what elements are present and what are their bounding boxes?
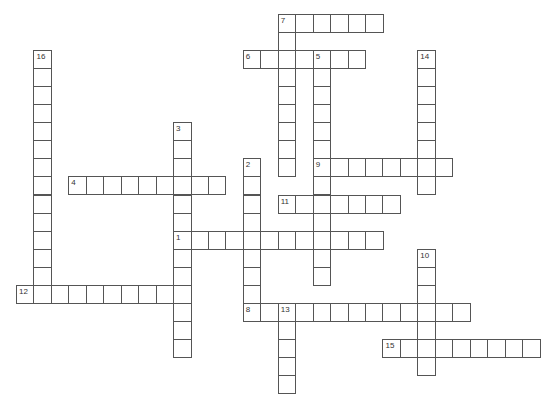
crossword-cell[interactable] <box>400 158 419 177</box>
crossword-cell[interactable] <box>417 321 436 340</box>
crossword-cell[interactable] <box>382 303 401 322</box>
crossword-cell[interactable] <box>173 339 192 358</box>
crossword-cell[interactable] <box>103 285 122 304</box>
crossword-cell[interactable] <box>330 158 349 177</box>
crossword-cell[interactable] <box>505 339 524 358</box>
crossword-cell[interactable] <box>278 339 297 358</box>
crossword-cell[interactable] <box>33 195 52 214</box>
crossword-cell[interactable] <box>417 104 436 123</box>
crossword-cell[interactable] <box>382 195 401 214</box>
crossword-cell[interactable]: 4 <box>68 176 87 195</box>
crossword-cell[interactable]: 5 <box>313 50 332 69</box>
crossword-cell[interactable] <box>278 104 297 123</box>
crossword-cell[interactable] <box>138 285 157 304</box>
crossword-cell[interactable] <box>173 213 192 232</box>
crossword-cell[interactable]: 3 <box>173 122 192 141</box>
crossword-cell[interactable] <box>156 285 175 304</box>
crossword-cell[interactable] <box>173 267 192 286</box>
crossword-cell[interactable] <box>278 32 297 51</box>
crossword-cell[interactable] <box>33 231 52 250</box>
crossword-cell[interactable] <box>330 50 349 69</box>
crossword-cell[interactable] <box>191 176 210 195</box>
crossword-cell[interactable] <box>243 213 262 232</box>
crossword-cell[interactable] <box>382 158 401 177</box>
crossword-cell[interactable] <box>243 231 262 250</box>
crossword-cell[interactable] <box>435 303 454 322</box>
crossword-cell[interactable] <box>173 158 192 177</box>
crossword-cell[interactable] <box>313 249 332 268</box>
crossword-cell[interactable]: 13 <box>278 303 297 322</box>
crossword-cell[interactable] <box>33 285 52 304</box>
crossword-cell[interactable] <box>173 249 192 268</box>
crossword-cell[interactable] <box>278 231 297 250</box>
crossword-cell[interactable] <box>278 321 297 340</box>
crossword-cell[interactable] <box>295 14 314 33</box>
crossword-cell[interactable] <box>33 267 52 286</box>
crossword-cell[interactable] <box>313 140 332 159</box>
crossword-cell[interactable]: 7 <box>278 14 297 33</box>
crossword-cell[interactable] <box>487 339 506 358</box>
crossword-cell[interactable] <box>470 339 489 358</box>
crossword-cell[interactable]: 6 <box>243 50 262 69</box>
crossword-cell[interactable]: 16 <box>33 50 52 69</box>
crossword-cell[interactable] <box>156 176 175 195</box>
crossword-cell[interactable] <box>330 195 349 214</box>
crossword-cell[interactable] <box>313 195 332 214</box>
crossword-cell[interactable] <box>173 303 192 322</box>
crossword-cell[interactable] <box>278 68 297 87</box>
crossword-cell[interactable] <box>260 50 279 69</box>
crossword-cell[interactable] <box>330 303 349 322</box>
crossword-cell[interactable] <box>435 158 454 177</box>
crossword-cell[interactable]: 12 <box>16 285 35 304</box>
crossword-cell[interactable] <box>313 86 332 105</box>
crossword-cell[interactable]: 15 <box>382 339 401 358</box>
crossword-cell[interactable] <box>365 231 384 250</box>
crossword-cell[interactable] <box>348 231 367 250</box>
crossword-cell[interactable] <box>313 14 332 33</box>
crossword-cell[interactable] <box>278 375 297 394</box>
crossword-cell[interactable] <box>417 86 436 105</box>
crossword-cell[interactable] <box>208 231 227 250</box>
crossword-cell[interactable] <box>278 140 297 159</box>
crossword-cell[interactable] <box>173 140 192 159</box>
crossword-cell[interactable] <box>365 158 384 177</box>
crossword-cell[interactable] <box>33 122 52 141</box>
crossword-cell[interactable] <box>313 303 332 322</box>
crossword-cell[interactable] <box>260 303 279 322</box>
crossword-cell[interactable]: 8 <box>243 303 262 322</box>
crossword-cell[interactable] <box>243 176 262 195</box>
crossword-cell[interactable] <box>348 303 367 322</box>
crossword-cell[interactable] <box>313 213 332 232</box>
crossword-cell[interactable] <box>191 231 210 250</box>
crossword-cell[interactable] <box>417 140 436 159</box>
crossword-cell[interactable] <box>243 249 262 268</box>
crossword-cell[interactable] <box>121 285 140 304</box>
crossword-cell[interactable] <box>138 176 157 195</box>
crossword-cell[interactable] <box>313 176 332 195</box>
crossword-cell[interactable] <box>452 339 471 358</box>
crossword-cell[interactable] <box>260 231 279 250</box>
crossword-cell[interactable] <box>330 14 349 33</box>
crossword-cell[interactable] <box>173 321 192 340</box>
crossword-cell[interactable] <box>365 195 384 214</box>
crossword-cell[interactable] <box>348 14 367 33</box>
crossword-cell[interactable] <box>348 195 367 214</box>
crossword-cell[interactable] <box>208 176 227 195</box>
crossword-cell[interactable] <box>103 176 122 195</box>
crossword-cell[interactable] <box>121 176 140 195</box>
crossword-cell[interactable] <box>313 122 332 141</box>
crossword-cell[interactable] <box>173 285 192 304</box>
crossword-cell[interactable] <box>400 339 419 358</box>
crossword-cell[interactable] <box>68 285 87 304</box>
crossword-cell[interactable] <box>33 68 52 87</box>
crossword-cell[interactable] <box>33 213 52 232</box>
crossword-cell[interactable] <box>278 122 297 141</box>
crossword-cell[interactable] <box>278 357 297 376</box>
crossword-cell[interactable]: 14 <box>417 50 436 69</box>
crossword-cell[interactable] <box>435 339 454 358</box>
crossword-cell[interactable] <box>173 176 192 195</box>
crossword-cell[interactable] <box>365 14 384 33</box>
crossword-cell[interactable] <box>313 104 332 123</box>
crossword-cell[interactable]: 11 <box>278 195 297 214</box>
crossword-cell[interactable] <box>86 176 105 195</box>
